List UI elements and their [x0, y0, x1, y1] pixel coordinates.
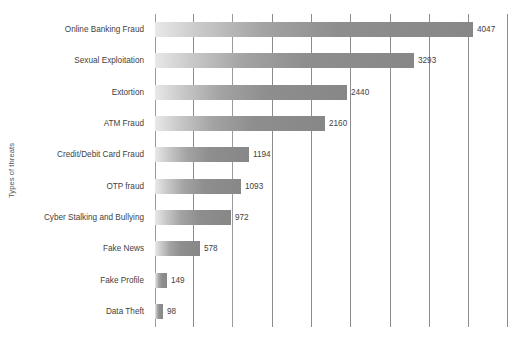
bar-value-label: 98 — [164, 304, 176, 319]
y-axis-tick-label: Credit/Debit Card Fraud — [57, 147, 144, 162]
gridline — [468, 14, 469, 327]
bar — [155, 22, 473, 37]
bar-value-label: 2160 — [326, 116, 347, 131]
y-axis-tick-label: Fake News — [103, 241, 144, 256]
bar — [155, 116, 325, 131]
y-axis-title: Types of threats — [0, 0, 22, 341]
y-axis-tick-label: Online Banking Fraud — [65, 22, 144, 37]
bar-value-label: 1194 — [250, 147, 271, 162]
bar — [155, 241, 200, 256]
y-axis-tick-label: ATM Fraud — [104, 116, 144, 131]
y-axis-tick-label: OTP fraud — [106, 179, 144, 194]
bar-value-label: 2440 — [348, 85, 369, 100]
y-axis-tick-label: Data Theft — [106, 304, 144, 319]
bar — [155, 147, 249, 162]
bar-value-label: 1093 — [242, 179, 263, 194]
bar — [155, 273, 167, 288]
bar-value-label: 3293 — [415, 53, 436, 68]
bar-value-label: 149 — [168, 273, 185, 288]
gridline — [507, 14, 508, 327]
bar — [155, 210, 231, 225]
plot-area: 40473293244021601194109397257814998 — [155, 14, 510, 327]
y-axis-tick-label: Extortion — [112, 85, 144, 100]
y-axis-tick-labels: Online Banking FraudSexual ExploitationE… — [22, 14, 150, 327]
y-axis-tick-label: Cyber Stalking and Bullying — [44, 210, 144, 225]
bar-chart: Types of threats Online Banking FraudSex… — [0, 0, 530, 341]
y-axis-title-label: Types of threats — [7, 143, 16, 198]
bar — [155, 53, 414, 68]
bar-value-label: 972 — [232, 210, 249, 225]
bar — [155, 304, 163, 319]
y-axis-tick-label: Sexual Exploitation — [74, 53, 144, 68]
bar-value-label: 4047 — [474, 22, 495, 37]
y-axis-tick-label: Fake Profile — [100, 273, 144, 288]
bar — [155, 179, 241, 194]
bar — [155, 85, 347, 100]
bar-value-label: 578 — [201, 241, 218, 256]
